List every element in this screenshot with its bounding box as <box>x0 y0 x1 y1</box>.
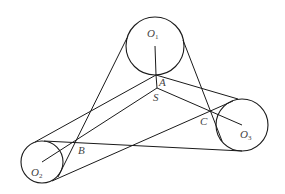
label-c: C <box>200 115 208 127</box>
tangent-o2-a <box>35 75 156 142</box>
diagram-svg: O1 O2 O3 A S B C <box>0 0 285 194</box>
belt-pulley-diagram: O1 O2 O3 A S B C <box>0 0 285 194</box>
label-s: S <box>153 91 159 103</box>
label-b: B <box>78 144 85 156</box>
label-o1: O1 <box>147 27 159 41</box>
tangent-a-o3 <box>156 75 238 99</box>
segment-o2-s <box>42 88 157 162</box>
tangent-o1-o2-left <box>58 38 127 177</box>
label-o3: O3 <box>240 128 252 142</box>
label-a: A <box>158 76 166 88</box>
segment-o1-a <box>155 46 156 75</box>
segment-a-s <box>156 75 157 88</box>
tangent-o2-o3-through-c <box>52 101 233 181</box>
label-o2: O2 <box>31 166 43 180</box>
